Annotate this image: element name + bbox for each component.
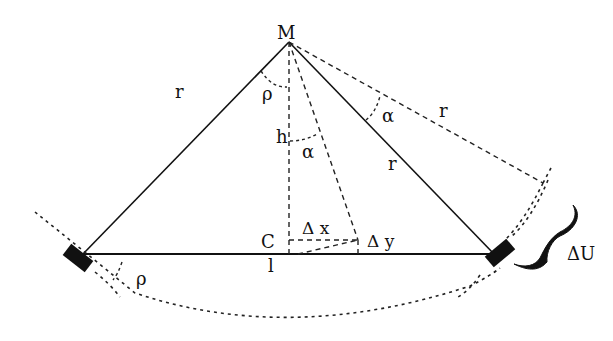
label-alpha-inner: α	[302, 141, 314, 162]
label-l: l	[268, 255, 274, 276]
rotated-radius	[289, 42, 543, 183]
label-apex-m: M	[277, 22, 295, 43]
label-delta-u: ΔU	[567, 243, 595, 264]
label-r-right: r	[388, 153, 397, 174]
label-alpha-outer: α	[382, 105, 394, 126]
arc-right-upper-2	[512, 180, 548, 236]
label-rho-bottom: ρ	[136, 268, 147, 289]
suspension-line-left	[83, 42, 289, 254]
arc-right-upper	[505, 183, 543, 240]
angle-arc-rho-bottom	[113, 262, 122, 280]
label-delta-y: Δ y	[367, 231, 395, 251]
rotated-line	[289, 42, 358, 240]
arc-right-lower	[458, 275, 480, 297]
label-c: C	[261, 231, 275, 252]
label-h: h	[276, 126, 288, 147]
label-rho-top: ρ	[262, 83, 273, 104]
angle-arc-alpha-inner	[290, 134, 317, 141]
label-r-dashed: r	[439, 100, 448, 121]
label-delta-x: Δ x	[302, 218, 330, 238]
label-r-left: r	[175, 81, 184, 102]
diagram-canvas: M r ρ h α α r r C Δ x Δ y l ρ ΔU	[0, 0, 613, 341]
c-to-delta-line	[298, 240, 358, 254]
angle-arc-alpha-outer	[366, 96, 380, 120]
mass-right	[485, 239, 515, 268]
